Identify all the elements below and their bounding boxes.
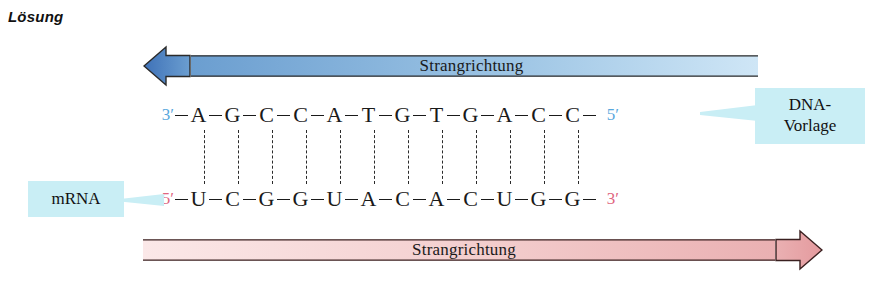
bond-dash bbox=[481, 199, 494, 200]
mrna-base: G bbox=[529, 188, 548, 210]
hydrogen-bond bbox=[323, 130, 357, 184]
bond-dash bbox=[243, 115, 256, 116]
mrna-base: G bbox=[257, 188, 276, 210]
bond-dash bbox=[515, 199, 528, 200]
bond-dash bbox=[345, 115, 358, 116]
bond-dash bbox=[345, 199, 358, 200]
dna-right-end-label: 5′ bbox=[597, 105, 619, 125]
hydrogen-bond bbox=[561, 130, 595, 184]
mrna-callout-text: mRNA bbox=[51, 189, 100, 210]
mrna-callout-pointer-icon bbox=[120, 192, 164, 208]
dna-base: C bbox=[291, 104, 310, 126]
arrow-label-mrna: Strangrichtung bbox=[402, 240, 516, 260]
dna-base: T bbox=[359, 104, 378, 126]
bond-dash bbox=[549, 199, 562, 200]
mrna-base: U bbox=[189, 188, 208, 210]
arrow-body-dna: Strangrichtung bbox=[191, 44, 758, 88]
hydrogen-bond bbox=[187, 130, 221, 184]
dna-mrna-pairing-diagram: 3′ A G C C A T G T G A C C 5′ bbox=[152, 100, 752, 214]
bond-dash bbox=[515, 115, 528, 116]
mrna-base: C bbox=[223, 188, 242, 210]
dna-callout-text-line2: Vorlage bbox=[784, 116, 837, 137]
bond-dash bbox=[175, 199, 188, 200]
arrow-head-right-shape bbox=[775, 228, 823, 272]
dna-callout-text-line1: DNA- bbox=[789, 95, 832, 116]
bond-dash bbox=[311, 115, 324, 116]
bond-dash bbox=[583, 115, 596, 116]
arrow-body-mrna: Strangrichtung bbox=[143, 228, 775, 272]
hydrogen-bond bbox=[527, 130, 561, 184]
hydrogen-bond-group bbox=[152, 130, 752, 184]
dna-base: C bbox=[257, 104, 276, 126]
dna-base: G bbox=[461, 104, 480, 126]
hydrogen-bond bbox=[459, 130, 493, 184]
dna-left-end-label: 3′ bbox=[152, 105, 174, 125]
hydrogen-bond bbox=[391, 130, 425, 184]
hydrogen-bond bbox=[357, 130, 391, 184]
bond-dash bbox=[413, 115, 426, 116]
dna-base: G bbox=[223, 104, 242, 126]
mrna-base: G bbox=[291, 188, 310, 210]
bond-dash bbox=[209, 199, 222, 200]
dna-base: G bbox=[393, 104, 412, 126]
hydrogen-bond bbox=[221, 130, 255, 184]
dna-base: C bbox=[563, 104, 582, 126]
bond-dash bbox=[277, 115, 290, 116]
bond-dash bbox=[175, 115, 188, 116]
dna-base: A bbox=[325, 104, 344, 126]
bond-dash bbox=[311, 199, 324, 200]
mrna-strand-row: 5′ U C G G U A C A C U G G 3′ bbox=[152, 184, 752, 214]
mrna-callout-label: mRNA bbox=[28, 181, 124, 217]
bond-dash bbox=[277, 199, 290, 200]
mrna-base: G bbox=[563, 188, 582, 210]
bond-dash bbox=[447, 199, 460, 200]
hydrogen-bond bbox=[289, 130, 323, 184]
bond-dash bbox=[549, 115, 562, 116]
dna-base: A bbox=[189, 104, 208, 126]
hydrogen-bond bbox=[493, 130, 527, 184]
dna-base: T bbox=[427, 104, 446, 126]
mrna-base: A bbox=[359, 188, 378, 210]
dna-base: C bbox=[529, 104, 548, 126]
dna-template-callout-label: DNA- Vorlage bbox=[755, 88, 865, 144]
strand-direction-arrow-mrna: Strangrichtung bbox=[143, 228, 823, 272]
dna-callout-pointer-icon bbox=[700, 104, 758, 122]
bond-dash bbox=[583, 199, 596, 200]
arrow-head-left-icon bbox=[143, 44, 191, 88]
mrna-right-end-label: 3′ bbox=[597, 189, 619, 209]
dna-template-strand-row: 3′ A G C C A T G T G A C C 5′ bbox=[152, 100, 752, 130]
strand-direction-arrow-dna: Strangrichtung bbox=[143, 44, 758, 88]
page-title: Lösung bbox=[8, 8, 63, 25]
mrna-base: C bbox=[461, 188, 480, 210]
hydrogen-bond bbox=[255, 130, 289, 184]
bond-dash bbox=[243, 199, 256, 200]
mrna-base: C bbox=[393, 188, 412, 210]
dna-base: A bbox=[495, 104, 514, 126]
bond-dash bbox=[379, 199, 392, 200]
bond-dash bbox=[379, 115, 392, 116]
bond-dash bbox=[447, 115, 460, 116]
arrow-head-left-shape bbox=[143, 44, 191, 88]
bond-spacer bbox=[174, 130, 187, 184]
hydrogen-bond bbox=[425, 130, 459, 184]
mrna-base: A bbox=[427, 188, 446, 210]
mrna-base: U bbox=[495, 188, 514, 210]
arrow-head-right-icon bbox=[775, 228, 823, 272]
bond-dash bbox=[209, 115, 222, 116]
mrna-base: U bbox=[325, 188, 344, 210]
bond-dash bbox=[481, 115, 494, 116]
arrow-label-dna: Strangrichtung bbox=[420, 56, 530, 76]
bond-dash bbox=[413, 199, 426, 200]
